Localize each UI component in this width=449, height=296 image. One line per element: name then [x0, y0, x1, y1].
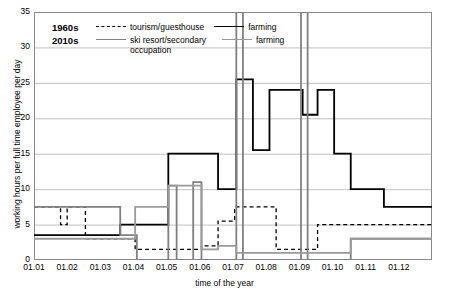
- x-tick-label: 01.12: [382, 262, 416, 272]
- chart-legend: 1960s tourism/guesthouse farming 2010s: [52, 22, 294, 57]
- legend-swatch-solid-gray: [96, 35, 126, 45]
- legend-swatch-dashed-black: [96, 22, 126, 32]
- x-tick-label: 01.03: [83, 262, 117, 272]
- legend-swatch-solid-black: [214, 22, 244, 32]
- legend-group-label: 1960s: [52, 22, 96, 33]
- x-tick-label: 01.08: [249, 262, 283, 272]
- legend-item: farming: [214, 22, 276, 32]
- legend-group-label: 2010s: [52, 35, 96, 46]
- legend-item: farming: [222, 35, 284, 45]
- series-line: [34, 207, 432, 250]
- legend-item: tourism/guesthouse: [96, 22, 204, 32]
- series-line: [34, 79, 432, 235]
- legend-label: tourism/guesthouse: [130, 22, 204, 32]
- x-tick-label: 01.11: [349, 262, 383, 272]
- series-line: [34, 186, 432, 253]
- x-tick-label: 01.09: [282, 262, 316, 272]
- legend-item: ski resort/secondary occupation: [96, 35, 212, 55]
- x-tick-label: 01.06: [183, 262, 217, 272]
- chart-container: 05101520253035 1960s tourism/guesthouse …: [0, 0, 449, 296]
- x-tick-label: 01.07: [216, 262, 250, 272]
- legend-label: ski resort/secondary occupation: [130, 35, 212, 55]
- x-tick-label: 01.10: [316, 262, 350, 272]
- legend-group-1960s: 1960s tourism/guesthouse farming: [52, 22, 294, 33]
- legend-label: farming: [256, 35, 284, 45]
- x-axis-label: time of the year: [0, 278, 449, 288]
- x-tick-label: 01.04: [117, 262, 151, 272]
- x-tick-label: 01.02: [50, 262, 84, 272]
- y-axis-label: working hours per full time employee per…: [12, 0, 26, 292]
- legend-swatch-solid-lightgray: [222, 35, 252, 45]
- legend-group-2010s: 2010s ski resort/secondary occupation fa…: [52, 35, 294, 55]
- x-tick-label: 01.05: [150, 262, 184, 272]
- legend-label: farming: [248, 22, 276, 32]
